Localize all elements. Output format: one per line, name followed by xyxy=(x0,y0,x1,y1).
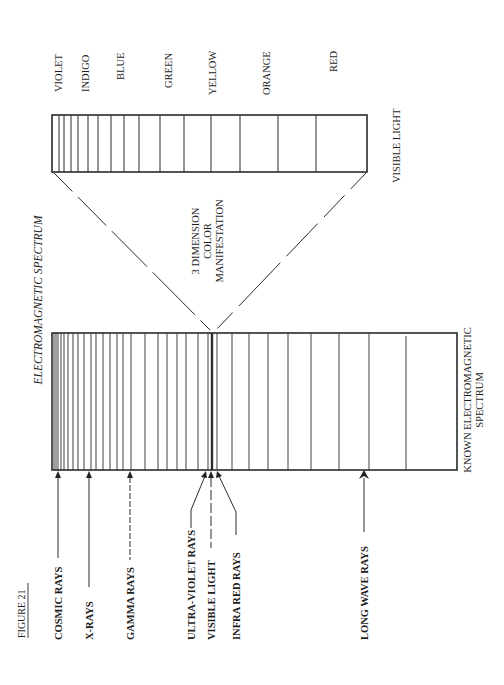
color-label-yellow: YELLOW xyxy=(207,51,218,95)
arrow-icon-longwave xyxy=(359,470,369,479)
figure-label: FIGURE 21 xyxy=(16,583,28,638)
arrow-icon-gamma xyxy=(127,471,133,478)
color-manifestation-note: 3 DIMENSION COLOR MANIFESTATION xyxy=(190,199,225,283)
label-x-rays: X-RAYS xyxy=(84,601,95,640)
known-spectrum-box xyxy=(52,333,457,470)
color-label-violet: VIOLET xyxy=(53,54,64,92)
figure-number: FIGURE 21 xyxy=(16,589,27,638)
figure-title: ELECTROMAGNETIC SPECTRUM xyxy=(32,214,44,385)
arrow-icon-ultraviolet xyxy=(201,471,207,478)
label-infra-red-rays: INFRA RED RAYS xyxy=(231,552,242,640)
label-cosmic-rays: COSMIC RAYS xyxy=(53,566,64,640)
label-gamma-rays: GAMMA RAYS xyxy=(125,567,136,640)
arrow-icon-xrays xyxy=(86,471,92,478)
color-label-red: RED xyxy=(328,51,339,72)
color-label-indigo: INDIGO xyxy=(80,54,91,92)
label-ultraviolet-rays: ULTRA-VIOLET RAYS xyxy=(186,530,197,640)
arrow-icon-visible xyxy=(208,471,214,478)
label-visible-light: VISIBLE LIGHT xyxy=(206,560,217,640)
color-label-orange: ORANGE xyxy=(261,51,272,95)
note-line-1: 3 DIMENSION xyxy=(190,207,201,274)
arrow-icon-infrared xyxy=(216,471,222,478)
note-line-3: MANIFESTATION xyxy=(214,199,225,283)
arrowheads xyxy=(55,470,369,479)
known-spectrum-caption: KNOWN ELECTROMAGNETIC SPECTRUM xyxy=(462,327,485,473)
visible-light-caption: VISIBLE LIGHT xyxy=(391,108,402,183)
color-label-green: GREEN xyxy=(163,53,174,88)
color-label-blue: BLUE xyxy=(115,53,126,80)
known-spectrum-caption-line-1: KNOWN ELECTROMAGNETIC xyxy=(462,327,473,473)
visible-light-box xyxy=(52,115,367,172)
note-line-2: COLOR xyxy=(202,223,213,259)
arrow-icon-cosmic xyxy=(55,471,61,478)
electromagnetic-spectrum-diagram: VIOLET INDIGO BLUE GREEN YELLOW ORANGE R… xyxy=(0,0,504,685)
color-labels: VIOLET INDIGO BLUE GREEN YELLOW ORANGE R… xyxy=(53,51,339,95)
known-spectrum-caption-line-2: SPECTRUM xyxy=(474,372,485,428)
label-long-wave-rays: LONG WAVE RAYS xyxy=(359,546,370,640)
